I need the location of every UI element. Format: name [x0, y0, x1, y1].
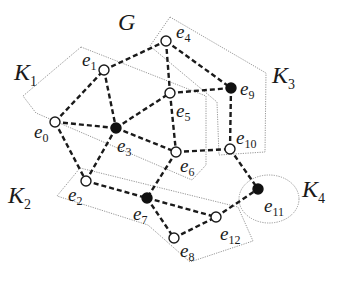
node-label-e2-subscript: 2: [76, 194, 82, 208]
node-label-e4-subscript: 4: [184, 31, 190, 45]
edge-e3-e5: [116, 93, 170, 128]
edge-e1-e3: [104, 70, 116, 128]
node-e9: [226, 83, 236, 93]
region-label-k3-subscript: 3: [288, 77, 295, 92]
graph-title: G: [118, 9, 135, 35]
node-label-e7: e7: [133, 203, 147, 227]
node-e2: [81, 176, 91, 186]
edge-e10-e11: [230, 149, 258, 189]
node-label-e10: e10: [236, 127, 256, 151]
node-label-e10-subscript: 10: [244, 137, 256, 151]
node-label-e8: e8: [180, 240, 194, 264]
node-label-e0: e0: [34, 121, 48, 145]
edge-e6-e7: [147, 152, 176, 198]
node-label-e11-subscript: 11: [272, 205, 284, 219]
node-label-e5: e5: [176, 100, 190, 124]
node-label-e3-subscript: 3: [125, 145, 131, 159]
region-label-k2: K2: [7, 182, 31, 212]
edge-e0-e2: [55, 122, 86, 181]
node-e7: [142, 193, 152, 203]
edge-e6-e10: [176, 149, 230, 152]
node-label-e6: e6: [180, 155, 194, 179]
node-label-e3: e3: [117, 135, 131, 159]
edge-e8-e12: [174, 217, 216, 238]
node-e4: [161, 36, 171, 46]
node-e5: [165, 88, 175, 98]
node-label-e9: e9: [240, 78, 254, 102]
node-label-e6-subscript: 6: [188, 165, 194, 179]
node-label-e8-subscript: 8: [188, 250, 194, 264]
edge-e7-e8: [147, 198, 174, 238]
node-label-e7-subscript: 7: [141, 213, 147, 227]
node-e0: [50, 117, 60, 127]
graph-edges: [55, 41, 258, 238]
node-label-e5-subscript: 5: [184, 110, 190, 124]
node-label-e4: e4: [176, 21, 190, 45]
region-label-k1: K1: [13, 59, 37, 89]
edge-e4-e5: [166, 41, 170, 93]
edge-e1-e4: [104, 41, 166, 70]
node-e3: [111, 123, 121, 133]
region-label-k2-subscript: 2: [24, 197, 31, 212]
region-label-k4-subscript: 4: [318, 191, 325, 206]
node-label-e9-subscript: 9: [248, 88, 254, 102]
node-e1: [99, 65, 109, 75]
node-label-e11: e11: [264, 195, 284, 219]
node-e10: [225, 144, 235, 154]
edge-e4-e9: [166, 41, 231, 88]
edge-e2-e7: [86, 181, 147, 198]
region-label-k1-subscript: 1: [30, 74, 37, 89]
node-label-e1-subscript: 1: [90, 59, 96, 73]
graph-diagram: G K1K2K3K4e0e1e2e3e4e5e6e7e8e9e10e11e12: [0, 0, 349, 282]
node-e12: [211, 212, 221, 222]
node-e8: [169, 233, 179, 243]
edge-e0-e1: [55, 70, 104, 122]
node-label-e2: e2: [68, 184, 82, 208]
region-label-k4: K4: [301, 176, 325, 206]
edge-e9-e10: [230, 88, 231, 149]
node-e11: [253, 184, 263, 194]
node-label-e12: e12: [220, 223, 240, 247]
node-label-e12-subscript: 12: [228, 233, 240, 247]
node-label-e0-subscript: 0: [42, 131, 48, 145]
region-label-k3: K3: [271, 62, 295, 92]
